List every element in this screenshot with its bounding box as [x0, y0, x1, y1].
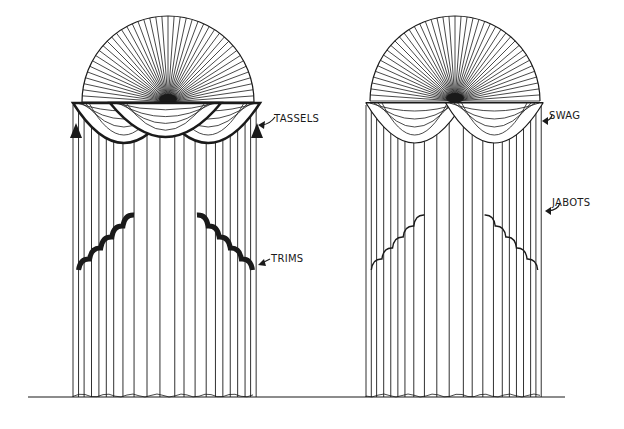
label-trims: TRIMS — [271, 253, 303, 264]
label-jabots: JABOTS — [552, 197, 590, 208]
label-swag: SWAG — [549, 110, 580, 121]
drapery-illustration — [0, 0, 624, 429]
label-tassels: TASSELS — [274, 113, 319, 124]
right-drape-plain — [366, 16, 543, 397]
left-drape-tasseled — [70, 16, 263, 397]
